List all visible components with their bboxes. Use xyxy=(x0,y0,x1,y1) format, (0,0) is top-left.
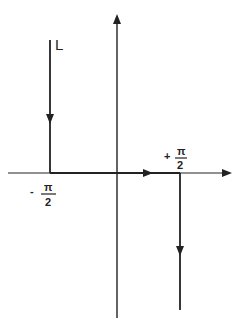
right-marker-denominator: 2 xyxy=(177,159,183,171)
left-marker-sign: - xyxy=(30,185,34,197)
down-arrow-icon xyxy=(176,246,184,256)
right-arrow-icon xyxy=(143,169,153,177)
right-marker-numerator: π xyxy=(177,145,186,157)
contour-diagram: L - π 2 + π 2 xyxy=(0,0,238,331)
horizontal-axis-arrow-icon xyxy=(222,169,232,177)
vertical-axis-arrow-icon xyxy=(113,14,121,24)
right-marker-sign: + xyxy=(164,150,170,162)
left-marker-numerator: π xyxy=(44,181,53,193)
left-marker-denominator: 2 xyxy=(45,196,51,208)
down-arrow-icon xyxy=(46,114,54,124)
contour-label: L xyxy=(55,36,63,53)
